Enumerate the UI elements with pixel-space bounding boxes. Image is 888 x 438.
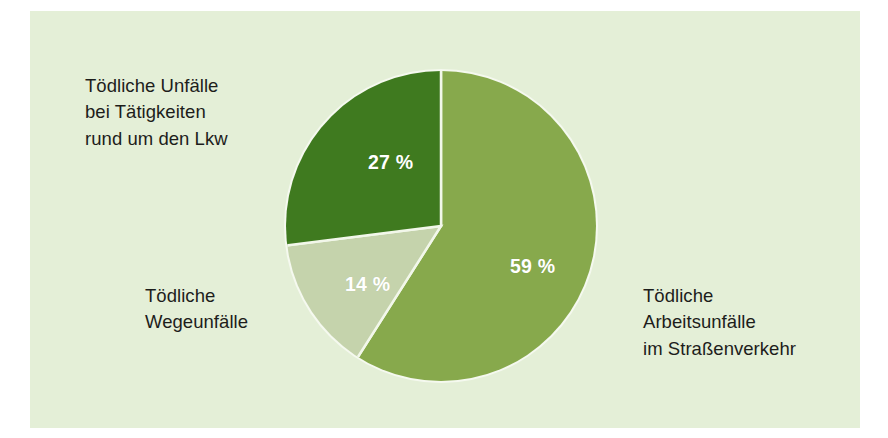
category-label-wegeunfaelle: Tödliche Wegeunfälle: [145, 283, 248, 336]
category-label-arbeitsunfaelle: Tödliche Arbeitsunfälle im Straßenverkeh…: [643, 283, 796, 362]
slice-value-arbeitsunfaelle: 59 %: [510, 255, 555, 278]
chart-panel: 59 % 14 % 27 % Tödliche Unfälle bei Täti…: [30, 11, 860, 428]
pie-graphic: [284, 66, 598, 386]
slice-value-wegeunfaelle: 14 %: [345, 273, 390, 296]
pie-slice-lkw[interactable]: [284, 68, 441, 246]
page-canvas: 59 % 14 % 27 % Tödliche Unfälle bei Täti…: [0, 0, 888, 438]
category-label-lkw: Tödliche Unfälle bei Tätigkeiten rund um…: [85, 73, 228, 152]
slice-value-lkw: 27 %: [368, 151, 413, 174]
pie-chart-figure: 59 % 14 % 27 % Tödliche Unfälle bei Täti…: [30, 11, 860, 428]
pie-svg: [284, 66, 598, 386]
